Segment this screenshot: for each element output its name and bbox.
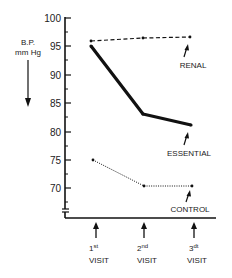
tick-100: 100 — [44, 13, 61, 24]
visit-2-label: 2nd — [137, 243, 148, 253]
renal-label: RENAL — [180, 61, 207, 70]
tick-95: 95 — [50, 41, 62, 52]
visit-2-word: VISIT — [137, 256, 157, 265]
control-line — [93, 160, 192, 186]
bp-chart: 100 95 90 85 80 75 70 B.P. mm Hg RENAL E… — [0, 0, 232, 278]
renal-points — [90, 36, 192, 43]
control-label: CONTROL — [170, 205, 210, 214]
y-label-unit: mm Hg — [15, 48, 41, 57]
essential-arrow-icon — [184, 132, 189, 145]
y-major-ticks — [65, 18, 71, 188]
essential-points — [89, 44, 192, 126]
control-points — [92, 159, 194, 188]
tick-90: 90 — [50, 70, 62, 81]
essential-line — [91, 46, 191, 125]
tick-70: 70 — [50, 183, 62, 194]
essential-label: ESSENTIAL — [167, 149, 212, 158]
renal-line — [91, 37, 190, 41]
y-label-bp: B.P. — [21, 38, 35, 47]
visit-1-word: VISIT — [89, 256, 109, 265]
tick-75: 75 — [50, 155, 62, 166]
control-arrow-icon — [186, 190, 191, 202]
visit-arrow-icons — [93, 222, 197, 238]
visit-3-word: VISIT — [187, 256, 207, 265]
renal-arrow-icon — [184, 44, 189, 57]
tick-85: 85 — [50, 98, 62, 109]
visit-1-label: 1st — [89, 243, 98, 253]
tick-80: 80 — [50, 127, 62, 138]
down-arrow-icon — [25, 60, 31, 107]
visit-3-label: 3dt — [189, 243, 199, 253]
